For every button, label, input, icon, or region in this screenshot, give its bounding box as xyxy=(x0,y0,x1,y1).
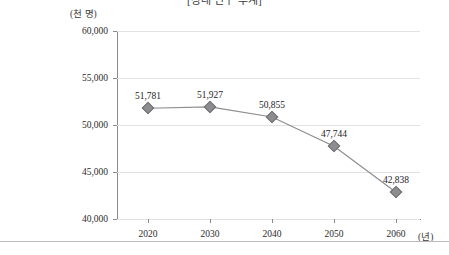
y-axis-tick-label: 60,000 xyxy=(82,26,108,36)
x-axis-tick-label: 2030 xyxy=(201,229,220,239)
data-point-value-label: 42,838 xyxy=(383,175,409,185)
x-axis-tick xyxy=(210,219,211,223)
y-axis-unit-label: (천 명) xyxy=(70,6,97,20)
data-point-value-label: 51,781 xyxy=(135,91,161,101)
plot-area: 60,00055,00050,00045,00040,000 202020302… xyxy=(117,31,420,219)
x-axis-tick-label: 2060 xyxy=(387,229,406,239)
x-axis-tick-label: 2040 xyxy=(263,229,282,239)
x-axis-tick xyxy=(148,219,149,223)
y-axis-tick-label: 45,000 xyxy=(82,167,108,177)
chart-title: [장래 인구 추계] xyxy=(0,0,449,7)
x-axis-tick-label: 2020 xyxy=(139,229,158,239)
y-axis-tick-label: 50,000 xyxy=(82,120,108,130)
x-axis-tick xyxy=(396,219,397,223)
data-point-value-label: 50,855 xyxy=(259,100,285,110)
data-point-value-label: 51,927 xyxy=(197,90,223,100)
y-axis-tick-label: 40,000 xyxy=(82,214,108,224)
population-line-series xyxy=(117,31,420,219)
x-axis-tick xyxy=(272,219,273,223)
x-axis-tick xyxy=(334,219,335,223)
y-axis-tick-label: 55,000 xyxy=(82,73,108,83)
data-point-value-label: 47,744 xyxy=(321,129,347,139)
footer-divider xyxy=(0,241,449,242)
gridline xyxy=(117,219,420,220)
y-axis-tick xyxy=(113,219,117,220)
x-axis-tick-label: 2050 xyxy=(325,229,344,239)
